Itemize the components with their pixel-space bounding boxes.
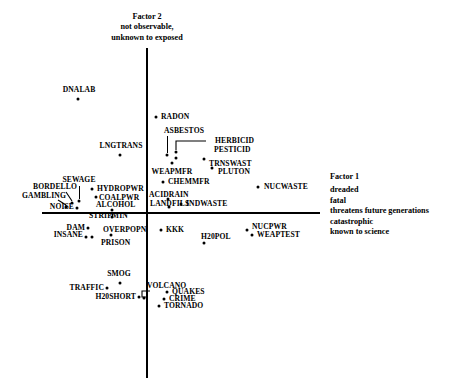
- point-label: H20POL: [201, 233, 231, 241]
- point-label: TRAFFIC: [70, 284, 104, 292]
- data-point: [175, 157, 178, 160]
- point-label: DNALAB: [63, 86, 96, 94]
- data-point: [203, 158, 206, 161]
- point-label: TORNADO: [164, 302, 203, 310]
- scatter-plot: Factor 2 not observable, unknown to expo…: [0, 0, 454, 387]
- point-label: NUCWASTE: [264, 183, 308, 191]
- factor2-desc-line1: not observable,: [111, 22, 182, 32]
- data-point: [143, 297, 146, 300]
- point-label: LNGTRANS: [100, 142, 143, 150]
- data-point: [160, 229, 163, 232]
- data-point: [155, 116, 158, 119]
- point-label: SMOG: [107, 270, 131, 278]
- data-point: [171, 162, 174, 165]
- data-point: [87, 227, 90, 230]
- point-label: GAMBLING: [22, 192, 66, 200]
- factor1-desc-line4: catastrophic: [330, 217, 429, 227]
- point-label: PRISON: [101, 239, 130, 247]
- data-point: [119, 282, 122, 285]
- data-point: [138, 296, 141, 299]
- point-label: HYDROPWR: [97, 185, 144, 193]
- point-label: STRIPMIN: [89, 212, 128, 220]
- data-point: [251, 234, 254, 237]
- data-point: [119, 154, 122, 157]
- leader-line: [79, 186, 80, 199]
- data-point: [175, 151, 178, 154]
- data-point: [85, 236, 88, 239]
- point-label: CHEMMFR: [168, 178, 210, 186]
- factor2-axis-title: Factor 2 not observable, unknown to expo…: [111, 12, 182, 43]
- point-label: ASBESTOS: [164, 127, 204, 135]
- point-label: WEAPTEST: [257, 231, 300, 239]
- factor2-desc-line2: unknown to exposed: [111, 33, 182, 43]
- data-point: [257, 186, 260, 189]
- data-point: [91, 236, 94, 239]
- leader-line: [167, 136, 168, 153]
- point-label: BORDELLO: [33, 183, 77, 191]
- factor2-title-text: Factor 2: [111, 12, 182, 22]
- point-label: OVERPOPN: [103, 226, 146, 234]
- point-label: KKK: [166, 226, 184, 234]
- factor1-desc-line1: dreaded: [330, 185, 429, 195]
- point-label: INSANE: [54, 231, 83, 239]
- point-label: ALCOHOL: [96, 201, 136, 209]
- point-label: H20SHORT: [95, 293, 136, 301]
- data-point: [91, 188, 94, 191]
- factor1-desc-line2: fatal: [330, 196, 429, 206]
- factor1-axis-line: [42, 212, 320, 214]
- point-label: HERBICID: [215, 137, 254, 145]
- data-point: [106, 287, 109, 290]
- data-point: [246, 229, 249, 232]
- data-point: [180, 203, 183, 206]
- data-point: [78, 200, 81, 203]
- point-label: PESTICID: [214, 146, 251, 154]
- factor1-desc-line5: known to science: [330, 227, 429, 237]
- point-label: LANDFILS: [150, 200, 189, 208]
- point-label: PLUTON: [218, 168, 250, 176]
- data-point: [162, 181, 165, 184]
- data-point: [211, 167, 214, 170]
- factor1-desc-line3: threatens future generations: [330, 206, 429, 216]
- data-point: [77, 98, 80, 101]
- point-label: RADON: [161, 113, 189, 121]
- data-point: [166, 154, 169, 157]
- data-point: [95, 196, 98, 199]
- point-label: ACIDRAIN: [149, 191, 189, 199]
- point-label: WEAPMFR: [152, 168, 193, 176]
- data-point: [158, 305, 161, 308]
- point-label: NOISE: [50, 203, 74, 211]
- point-label: INDWASTE: [186, 200, 227, 208]
- data-point: [76, 207, 79, 210]
- factor1-axis-title: Factor 1 dreaded fatal threatens future …: [330, 172, 429, 237]
- data-point: [203, 242, 206, 245]
- factor1-title-text: Factor 1: [330, 172, 429, 182]
